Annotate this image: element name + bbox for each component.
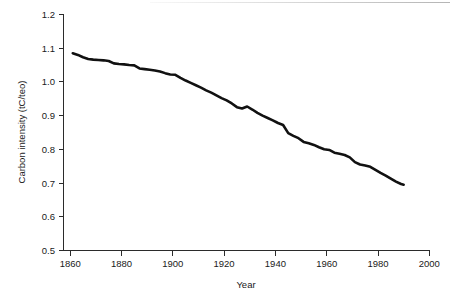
y-tick-label: 0.9: [42, 110, 55, 121]
x-tick-label: 1860: [60, 258, 81, 269]
x-tick-label: 1880: [111, 258, 132, 269]
figure-container: 1.2 1.1 1.0 0.9 0.8 0.7 0.6 0.5 1860 188…: [0, 0, 451, 295]
y-tick-label: 0.6: [42, 211, 55, 222]
y-axis-title: Carbon intensity (tC/teo): [16, 81, 27, 184]
x-tick-label: 1920: [214, 258, 235, 269]
y-tick-label: 0.5: [42, 245, 55, 256]
y-axis-tick-labels: 1.2 1.1 1.0 0.9 0.8 0.7 0.6 0.5: [42, 9, 55, 256]
x-tick-label: 2000: [419, 258, 440, 269]
x-tick-label: 1900: [162, 258, 183, 269]
data-series-line: [73, 53, 404, 184]
x-tick-label: 1940: [265, 258, 286, 269]
y-tick-label: 1.0: [42, 76, 55, 87]
y-axis-ticks: [59, 15, 64, 251]
x-axis-ticks: [70, 251, 429, 256]
x-axis-title: Year: [236, 279, 255, 290]
y-tick-label: 0.8: [42, 144, 55, 155]
x-tick-label: 1980: [367, 258, 388, 269]
y-tick-label: 1.1: [42, 43, 55, 54]
line-chart: 1.2 1.1 1.0 0.9 0.8 0.7 0.6 0.5 1860 188…: [0, 0, 451, 295]
y-tick-label: 0.7: [42, 178, 55, 189]
x-axis-tick-labels: 1860 1880 1900 1920 1940 1960 1980 2000: [60, 258, 440, 269]
y-tick-label: 1.2: [42, 9, 55, 20]
x-tick-label: 1960: [316, 258, 337, 269]
